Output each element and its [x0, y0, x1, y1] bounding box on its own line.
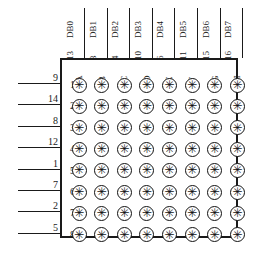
led-cell: ✳	[162, 206, 177, 221]
led-star-icon: ✳	[187, 186, 197, 198]
led-cell: ✳	[162, 99, 177, 114]
row-lead-8: 5	[18, 233, 60, 234]
column-db-label: DB7	[224, 21, 233, 38]
row-lead-line	[18, 211, 60, 212]
column-header-db1: DB13	[88, 8, 108, 58]
led-star-icon: ✳	[187, 122, 197, 134]
led-cell: ✳	[185, 163, 200, 178]
led-cell: ✳	[230, 120, 245, 135]
led-cell: ✳	[207, 206, 222, 221]
led-star-icon: ✳	[164, 143, 174, 155]
led-cell: ✳	[72, 78, 87, 93]
led-star-icon: ✳	[97, 79, 107, 91]
led-star-icon: ✳	[119, 122, 129, 134]
led-star-icon: ✳	[119, 79, 129, 91]
led-star-icon: ✳	[232, 143, 242, 155]
led-star-icon: ✳	[164, 100, 174, 112]
led-cell: ✳	[185, 120, 200, 135]
led-cell: ✳	[185, 185, 200, 200]
led-cell: ✳	[94, 142, 109, 157]
led-star-icon: ✳	[232, 229, 242, 241]
led-cell: ✳	[185, 206, 200, 221]
led-cell: ✳	[185, 227, 200, 242]
led-cell: ✳	[230, 227, 245, 242]
column-tick-line	[129, 8, 130, 58]
row-pin-number: 9	[53, 73, 58, 83]
led-star-icon: ✳	[164, 186, 174, 198]
led-star-icon: ✳	[119, 164, 129, 176]
led-star-icon: ✳	[142, 122, 152, 134]
led-star-icon: ✳	[97, 186, 107, 198]
led-cell: ✳	[162, 185, 177, 200]
led-cell: ✳	[139, 163, 154, 178]
led-cell: ✳	[117, 99, 132, 114]
row-lead-4: 12	[18, 147, 60, 148]
led-star-icon: ✳	[164, 229, 174, 241]
led-star-icon: ✳	[210, 164, 220, 176]
led-star-icon: ✳	[142, 164, 152, 176]
column-header-db5: DB511	[178, 8, 198, 58]
led-cell: ✳	[72, 163, 87, 178]
led-star-icon: ✳	[119, 143, 129, 155]
matrix-body: ABCDEFGH 12345678 ✳✳✳✳✳✳✳✳✳✳✳✳✳✳✳✳✳✳✳✳✳✳…	[60, 58, 238, 238]
led-cell: ✳	[230, 206, 245, 221]
led-star-icon: ✳	[232, 186, 242, 198]
led-cell: ✳	[139, 142, 154, 157]
column-tick-line	[152, 8, 153, 58]
led-star-icon: ✳	[164, 164, 174, 176]
row-lead-line	[18, 233, 60, 234]
led-matrix-diagram: DB013DB13DB24DB310DB46DB511DB615DB716 91…	[0, 0, 258, 265]
row-pin-number: 14	[48, 94, 58, 104]
row-pin-number: 1	[53, 159, 58, 169]
led-star-icon: ✳	[74, 186, 84, 198]
led-star-icon: ✳	[74, 164, 84, 176]
column-header-db3: DB310	[133, 8, 153, 58]
led-star-icon: ✳	[232, 100, 242, 112]
column-header-db7: DB716	[223, 8, 243, 58]
led-cell: ✳	[162, 120, 177, 135]
led-star-icon: ✳	[187, 229, 197, 241]
led-star-icon: ✳	[164, 122, 174, 134]
row-lead-line	[18, 126, 60, 127]
led-cell: ✳	[94, 206, 109, 221]
led-cell: ✳	[139, 99, 154, 114]
led-star-icon: ✳	[142, 100, 152, 112]
led-cell: ✳	[207, 227, 222, 242]
led-star-icon: ✳	[210, 79, 220, 91]
column-db-label: DB6	[202, 21, 211, 38]
column-tick-line	[107, 8, 108, 58]
led-star-icon: ✳	[142, 207, 152, 219]
led-cell: ✳	[72, 120, 87, 135]
led-star-icon: ✳	[232, 207, 242, 219]
row-lead-1: 9	[18, 83, 60, 84]
led-cell: ✳	[117, 206, 132, 221]
column-tick-line	[242, 8, 243, 58]
led-cell: ✳	[207, 163, 222, 178]
led-star-icon: ✳	[164, 207, 174, 219]
led-cell: ✳	[94, 163, 109, 178]
row-pin-number: 8	[53, 116, 58, 126]
led-star-icon: ✳	[74, 79, 84, 91]
column-header-db2: DB24	[110, 8, 130, 58]
column-header-db0: DB013	[65, 8, 85, 58]
led-cell: ✳	[139, 206, 154, 221]
led-cell: ✳	[139, 78, 154, 93]
led-cell: ✳	[117, 78, 132, 93]
led-star-icon: ✳	[97, 122, 107, 134]
column-db-label: DB2	[111, 21, 120, 38]
led-cell: ✳	[230, 163, 245, 178]
led-cell: ✳	[72, 99, 87, 114]
led-star-icon: ✳	[142, 79, 152, 91]
led-star-icon: ✳	[210, 229, 220, 241]
led-star-icon: ✳	[210, 100, 220, 112]
led-star-icon: ✳	[119, 186, 129, 198]
led-cell: ✳	[185, 78, 200, 93]
led-star-icon: ✳	[232, 79, 242, 91]
row-lead-line	[18, 83, 60, 84]
led-cell: ✳	[139, 227, 154, 242]
led-star-icon: ✳	[142, 229, 152, 241]
column-tick-line	[220, 8, 221, 58]
column-header-db4: DB46	[155, 8, 175, 58]
row-pin-number: 2	[53, 201, 58, 211]
led-star-icon: ✳	[210, 143, 220, 155]
